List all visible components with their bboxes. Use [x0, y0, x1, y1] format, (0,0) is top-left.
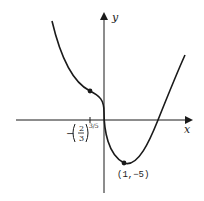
inflection-point	[88, 89, 93, 94]
right-paren	[86, 124, 88, 142]
exponent: 3/5	[89, 122, 99, 129]
function-curve	[52, 21, 185, 164]
x-axis-label: x	[184, 123, 191, 136]
y-axis-arrow-icon	[100, 12, 108, 20]
minimum-label: (1,−5)	[117, 170, 149, 180]
function-graph: y x − 2 3 3/5 (1,−5)	[0, 0, 204, 201]
minimum-point	[122, 161, 127, 166]
fraction-denominator: 3	[79, 134, 84, 143]
y-axis-label: y	[111, 11, 119, 24]
inflection-label: − 2 3 3/5	[66, 122, 99, 143]
fraction-numerator: 2	[79, 124, 84, 133]
